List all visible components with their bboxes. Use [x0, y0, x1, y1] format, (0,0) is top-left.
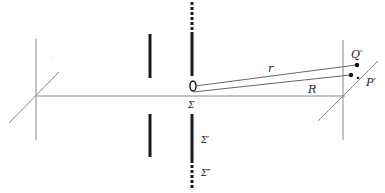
label-sigma-prime: Σ′ — [200, 135, 209, 145]
label-r: r — [268, 62, 274, 75]
right-diagonal-line — [318, 61, 378, 121]
point-P-prime — [357, 77, 360, 80]
label-R: R — [307, 83, 316, 96]
label-sigma: Σ — [187, 100, 195, 110]
label-P-prime: P′ — [365, 76, 376, 89]
left-diagonal-line — [9, 72, 59, 123]
point-P-prime-source — [349, 73, 353, 77]
speck-mark — [53, 57, 54, 58]
diffraction-diagram: r R Q′ P′ Σ Σ′ Σ″ — [0, 0, 385, 193]
label-Q-prime: Q′ — [351, 48, 363, 61]
label-sigma-double-prime: Σ″ — [200, 168, 211, 178]
point-Q-prime — [355, 63, 359, 67]
